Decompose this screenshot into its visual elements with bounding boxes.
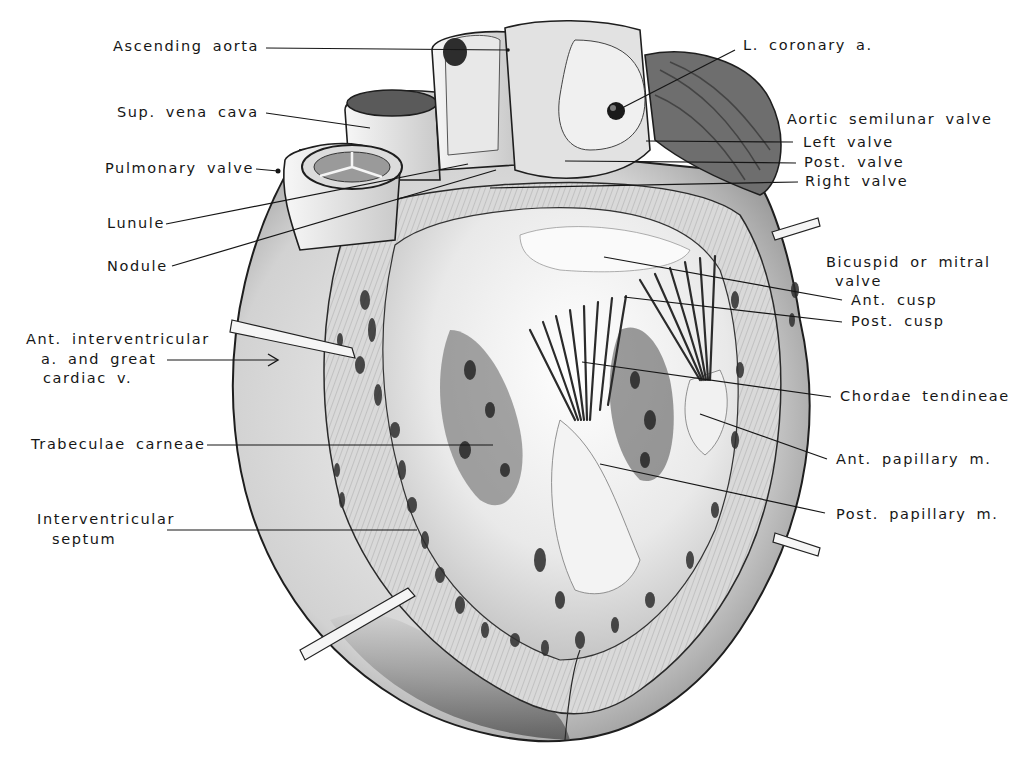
label-nodule: Nodule [107,257,168,276]
label-lunule: Lunule [107,214,165,233]
label-l-coronary-a: L. coronary a. [743,36,873,55]
label-sup-vena-cava: Sup. vena cava [117,103,259,122]
label-post-papillary-m: Post. papillary m. [836,505,999,524]
label-ant-interventricular-line1: Ant. interventricular [26,330,210,349]
label-post-cusp: Post. cusp [851,312,944,331]
l-coronary-ostium [607,102,625,120]
label-aortic-semilunar-valve: Aortic semilunar valve [787,110,992,129]
label-right-valve: Right valve [805,172,908,191]
heart-diagram: Ascending aorta Sup. vena cava Pulmonary… [0,0,1018,760]
label-bicuspid-line2: valve [835,272,882,291]
label-interventricular-septum-line2: septum [52,530,116,549]
label-ant-interventricular-line2: a. and great [41,350,157,369]
label-ant-papillary-m: Ant. papillary m. [836,450,991,469]
label-trabeculae-carneae: Trabeculae carneae [31,435,206,454]
label-chordae-tendineae: Chordae tendineae [840,387,1010,406]
label-ant-cusp: Ant. cusp [851,291,937,310]
label-ant-interventricular-line3: cardiac v. [43,369,132,388]
label-left-valve: Left valve [803,133,894,152]
label-post-valve: Post. valve [804,153,904,172]
label-ascending-aorta: Ascending aorta [113,37,259,56]
label-interventricular-septum-line1: Interventricular [37,510,175,529]
label-pulmonary-valve: Pulmonary valve [105,159,254,178]
label-bicuspid-line1: Bicuspid or mitral [826,253,991,272]
